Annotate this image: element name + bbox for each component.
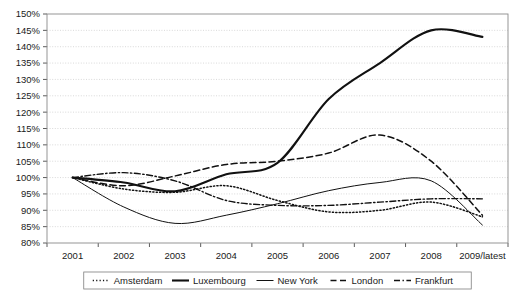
data-series-group — [73, 29, 483, 225]
series-line-london — [73, 135, 483, 215]
x-axis-tick-label: 2002 — [113, 250, 134, 261]
y-axis-tick-label: 105% — [16, 156, 41, 167]
chart-legend: AmsterdamLuxembourgNew YorkLondonFrankfu… — [84, 272, 472, 289]
y-axis-tick-label: 140% — [16, 41, 41, 52]
y-axis-tick-label: 135% — [16, 57, 41, 68]
y-axis-tick-label: 120% — [16, 107, 41, 118]
legend-label-amsterdam: Amsterdam — [114, 275, 163, 286]
x-axis-tick-label: 2008 — [421, 250, 442, 261]
x-axis-tick-label: 2004 — [216, 250, 237, 261]
y-axis-tick-label: 90% — [21, 205, 41, 216]
chart-container: 80%85%90%95%100%105%110%115%120%125%130%… — [0, 0, 519, 304]
x-axis-tick-label: 2005 — [267, 250, 288, 261]
y-axis-tick-label: 125% — [16, 90, 41, 101]
x-axis: 200120022003200420052006200720082009/lat… — [47, 243, 508, 261]
y-axis-tick-label: 85% — [21, 221, 41, 232]
x-axis-tick-label: 2001 — [62, 250, 83, 261]
y-axis-tick-label: 130% — [16, 74, 41, 85]
legend-label-luxembourg: Luxembourg — [193, 275, 246, 286]
series-line-luxembourg — [73, 29, 483, 191]
legend-label-new-york: New York — [278, 275, 318, 286]
grid-lines — [47, 30, 508, 226]
y-axis-tick-label: 150% — [16, 8, 41, 19]
y-axis: 80%85%90%95%100%105%110%115%120%125%130%… — [16, 8, 47, 248]
y-axis-tick-label: 80% — [21, 237, 41, 248]
y-axis-tick-label: 115% — [16, 123, 40, 134]
plot-area-border — [47, 14, 508, 243]
y-axis-tick-label: 95% — [21, 188, 41, 199]
x-axis-tick-label: 2006 — [318, 250, 339, 261]
x-axis-tick-label: 2007 — [369, 250, 390, 261]
x-axis-tick-label: 2003 — [164, 250, 185, 261]
line-chart: 80%85%90%95%100%105%110%115%120%125%130%… — [0, 0, 519, 304]
legend-label-frankfurt: Frankfurt — [415, 275, 453, 286]
y-axis-tick-label: 110% — [16, 139, 40, 150]
x-axis-tick-label: 2009/latest — [459, 250, 506, 261]
y-axis-tick-label: 100% — [16, 172, 41, 183]
legend-label-london: London — [352, 275, 384, 286]
y-axis-tick-label: 145% — [16, 25, 41, 36]
